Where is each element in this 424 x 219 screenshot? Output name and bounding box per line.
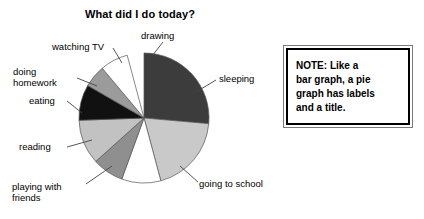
note-box: NOTE: Like a bar graph, a pie graph has …	[283, 45, 413, 128]
pie-label-playing-with-friends: playing with friends	[12, 181, 62, 203]
pie-label-going-to-school: going to school	[199, 178, 263, 189]
pie-slice-sleeping	[144, 53, 209, 124]
pie-slice-group	[79, 53, 209, 183]
pie-label-reading: reading	[19, 141, 51, 152]
leader-line-going-to-school	[180, 166, 198, 182]
pie-label-sleeping: sleeping	[219, 73, 254, 84]
leader-line-drawing	[152, 42, 163, 56]
pie-label-eating: eating	[29, 95, 55, 106]
leader-line-playing-with-friends	[86, 166, 112, 184]
note-text: NOTE: Like a bar graph, a pie graph has …	[296, 59, 375, 115]
pie-label-watching-tv: watching TV	[52, 41, 104, 52]
pie-label-doing-homework: doing homework	[13, 66, 57, 88]
pie-chart: drawing sleeping going to school playing…	[0, 0, 280, 219]
pie-label-drawing: drawing	[141, 30, 174, 41]
note-box-inner-border: NOTE: Like a bar graph, a pie graph has …	[286, 48, 410, 125]
pie-chart-worksheet: What did I do today? drawing sleeping go…	[0, 0, 424, 219]
